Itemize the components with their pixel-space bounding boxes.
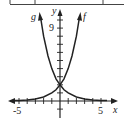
- table-border-fragment: [10, 0, 124, 5]
- y-tick-label-9: 9: [49, 22, 54, 33]
- y-axis: [57, 9, 63, 118]
- x-tick-label-neg5: -5: [13, 105, 21, 116]
- graph-svg: g f y x 9 -5 5: [0, 0, 124, 120]
- y-axis-up-arrow-icon: [58, 9, 63, 16]
- graph-figure: g f y x 9 -5 5: [0, 0, 124, 120]
- x-tick-label-5: 5: [98, 105, 103, 116]
- curve-f: [13, 20, 79, 101]
- y-axis-label: y: [51, 5, 57, 16]
- x-axis-label: x: [112, 104, 118, 115]
- curve-f-arrow-icon: [77, 12, 82, 21]
- curve-f-label: f: [83, 11, 87, 22]
- curve-g-label: g: [31, 11, 36, 22]
- curve-g-arrow-icon: [38, 12, 43, 21]
